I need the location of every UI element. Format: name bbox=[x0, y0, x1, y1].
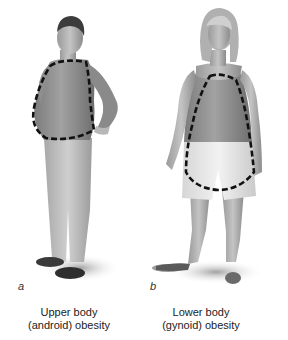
caption-android: Upper body (android) obesity bbox=[14, 306, 124, 332]
male-figure bbox=[33, 16, 120, 282]
caption-gynoid: Lower body (gynoid) obesity bbox=[146, 306, 256, 332]
caption-android-line2: (android) obesity bbox=[14, 319, 124, 332]
caption-android-line1: Upper body bbox=[14, 306, 124, 319]
panel-letter-a: a bbox=[18, 280, 24, 292]
illustration bbox=[0, 0, 288, 340]
panel-letter-b: b bbox=[150, 280, 156, 292]
caption-gynoid-line1: Lower body bbox=[146, 306, 256, 319]
caption-gynoid-line2: (gynoid) obesity bbox=[146, 319, 256, 332]
female-figure bbox=[152, 8, 264, 284]
